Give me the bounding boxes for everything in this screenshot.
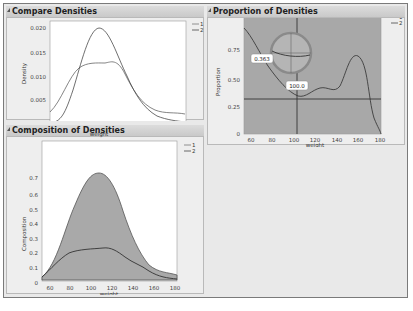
disclosure-triangle-icon[interactable] bbox=[7, 8, 10, 12]
svg-text:0.1: 0.1 bbox=[29, 265, 38, 271]
top-x-axis-labels: weight weight bbox=[6, 17, 406, 147]
svg-text:180: 180 bbox=[170, 285, 181, 291]
svg-text:0.4: 0.4 bbox=[29, 221, 38, 227]
compare-densities-header[interactable]: Compare Densities bbox=[6, 6, 204, 17]
report-window: Compare Densities 0.020 0.015 0.010 0.00… bbox=[3, 3, 408, 298]
svg-text:0.7: 0.7 bbox=[29, 175, 38, 181]
y-axis-label: Composition bbox=[21, 216, 28, 251]
proportion-x-axis-label: weight bbox=[306, 142, 325, 147]
compare-densities-title: Compare Densities bbox=[12, 7, 97, 16]
svg-text:0.5: 0.5 bbox=[29, 207, 38, 213]
y-axis-ticks: 0.7 0.6 0.5 0.4 0.3 0.2 0.1 0 bbox=[29, 175, 38, 286]
svg-text:0: 0 bbox=[35, 280, 39, 286]
svg-text:160: 160 bbox=[149, 285, 160, 291]
svg-text:60: 60 bbox=[47, 285, 54, 291]
compare-x-axis-label: weight bbox=[90, 131, 109, 138]
legend-label-2: 2 bbox=[192, 148, 196, 154]
svg-text:140: 140 bbox=[128, 285, 139, 291]
svg-text:0.6: 0.6 bbox=[29, 192, 38, 198]
svg-text:0.3: 0.3 bbox=[29, 236, 38, 242]
composition-densities-panel: 0.7 0.6 0.5 0.4 0.3 0.2 0.1 0 Compositio… bbox=[6, 136, 204, 294]
proportion-densities-title: Proportion of Densities bbox=[213, 7, 318, 16]
svg-text:100: 100 bbox=[86, 285, 97, 291]
disclosure-triangle-icon[interactable] bbox=[208, 8, 211, 12]
composition-densities-chart: 0.7 0.6 0.5 0.4 0.3 0.2 0.1 0 Compositio… bbox=[7, 137, 205, 295]
proportion-densities-header[interactable]: Proportion of Densities bbox=[207, 6, 405, 17]
svg-text:80: 80 bbox=[67, 285, 74, 291]
x-axis-label: weight bbox=[100, 291, 119, 295]
svg-text:0.2: 0.2 bbox=[29, 250, 38, 256]
